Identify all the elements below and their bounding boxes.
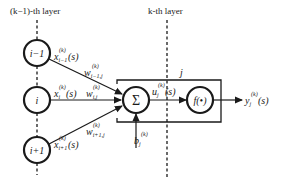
activation-node: f(•) <box>187 87 213 113</box>
weight-label-i: wi,j (k) <box>86 84 100 100</box>
svg-text:Σ: Σ <box>132 93 140 108</box>
input-node-i-minus-1: i−1 <box>24 40 50 66</box>
output-label: yj (k) (s) <box>244 91 269 107</box>
curr-layer-label: k-th layer <box>148 6 183 16</box>
svg-text:(k): (k) <box>59 84 66 91</box>
weight-label-i-plus-1: wi+1,j (k) <box>86 122 105 138</box>
net-input-label: uj (k) (s) <box>152 82 176 98</box>
neuron-index-label: j <box>178 67 183 78</box>
input-label-i-minus-1: xi−1 (k) (s) <box>53 47 79 63</box>
svg-text:(k): (k) <box>59 47 66 54</box>
svg-text:i+1: i+1 <box>30 145 45 156</box>
svg-text:(s): (s) <box>68 51 79 63</box>
input-label-i: xi (k) (s) <box>53 84 77 100</box>
input-label-i-plus-1: xi+1 (k) (s) <box>53 135 79 151</box>
svg-text:(s): (s) <box>165 86 176 98</box>
svg-text:i: i <box>36 95 39 106</box>
summation-node: Σ <box>123 87 149 113</box>
svg-text:(k): (k) <box>158 82 165 89</box>
svg-text:(k): (k) <box>59 135 66 142</box>
input-node-i-plus-1: i+1 <box>24 137 50 163</box>
svg-text:(k): (k) <box>92 63 99 70</box>
svg-text:(k): (k) <box>93 84 100 91</box>
svg-text:(s): (s) <box>66 88 77 100</box>
svg-text:(k): (k) <box>141 131 148 138</box>
weight-label-i-minus-1: wi−1,j (k) <box>84 63 103 79</box>
svg-text:(s): (s) <box>68 139 79 151</box>
prev-layer-label: (k−1)-th layer <box>10 6 60 16</box>
svg-text:i−1: i−1 <box>30 48 45 59</box>
svg-text:(k): (k) <box>93 122 100 129</box>
svg-text:(s): (s) <box>258 95 269 107</box>
input-node-i: i <box>24 87 50 113</box>
svg-text:f(•): f(•) <box>194 95 208 107</box>
neuron-diagram: (k−1)-th layer k-th layer j i−1 i i+1 xi… <box>0 0 282 183</box>
svg-text:(k): (k) <box>251 91 258 98</box>
svg-text:bj: bj <box>134 135 141 147</box>
